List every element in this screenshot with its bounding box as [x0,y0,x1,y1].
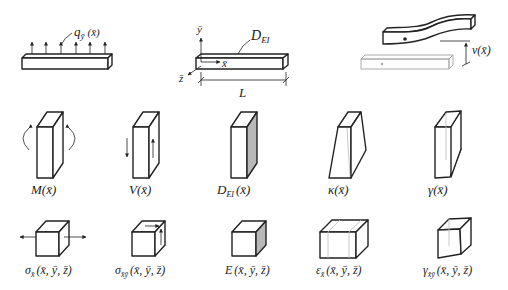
moment-element: M(x̄) [23,112,75,197]
rigidity-element: DEI(x̄) [216,112,257,199]
modulus-label: E(x̄, ȳ, z̄) [224,263,270,277]
deflection-label: v(x̄) [472,43,491,57]
normal-strain-label: εx̄(x̄, ȳ, z̄) [316,263,362,279]
z-axis-label: z̄ [178,72,184,84]
modulus-element: E(x̄, ȳ, z̄) [224,221,270,277]
shear-strain-label: γ(x̄) [428,182,448,197]
length-label: L [238,85,246,100]
moment-label: M(x̄) [30,182,56,197]
shear-label: V(x̄) [129,182,151,197]
shear-strain-3d-element: γx̄ȳ(x̄, ȳ, z̄) [423,218,472,279]
normal-stress-element: σx̄(x̄, ȳ, z̄) [20,221,86,279]
beam-axes-figure: ȳ x̄ z̄ DEI L [178,23,289,100]
load-label: qȳ(x̄) [74,24,100,41]
loaded-beam-figure: qȳ(x̄) [22,24,112,69]
normal-strain-element: εx̄(x̄, ȳ, z̄) [316,220,368,279]
shear-stress-element: σx̄ȳ(x̄, ȳ, z̄) [115,221,165,279]
x-axis-label: x̄ [221,57,227,69]
curvature-element: κ(x̄) [328,112,366,197]
shear-element: V(x̄) [127,112,159,197]
rigidity-label: DEI [250,28,271,45]
shear-stress-label: σx̄ȳ(x̄, ȳ, z̄) [115,263,165,279]
distributed-load-arrows [32,42,105,54]
normal-stress-label: σx̄(x̄, ȳ, z̄) [25,263,72,279]
rigidity-element-label: DEI(x̄) [216,182,250,199]
curvature-label: κ(x̄) [328,182,349,197]
shear-strain-element: γ(x̄) [428,111,461,197]
deflected-beam-figure: v(x̄) [361,15,491,69]
y-axis-label: ȳ [196,23,203,35]
shear-strain-3d-label: γx̄ȳ(x̄, ȳ, z̄) [423,263,472,279]
